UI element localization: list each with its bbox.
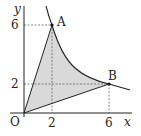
x-tick-2: 2 [48, 116, 56, 130]
y-axis-label: y [13, 2, 21, 16]
y-tick-2: 2 [11, 77, 19, 91]
y-tick-6: 6 [11, 18, 19, 32]
x-tick-6: 6 [105, 116, 113, 130]
origin-label: O [10, 115, 20, 129]
x-axis-label: x [124, 115, 131, 129]
coordinate-diagram: A B y x O 6 2 2 6 [0, 0, 141, 136]
point-A-label: A [56, 15, 66, 29]
shaded-region [24, 25, 109, 113]
point-A-marker [50, 23, 53, 26]
point-B-label: B [108, 69, 117, 83]
